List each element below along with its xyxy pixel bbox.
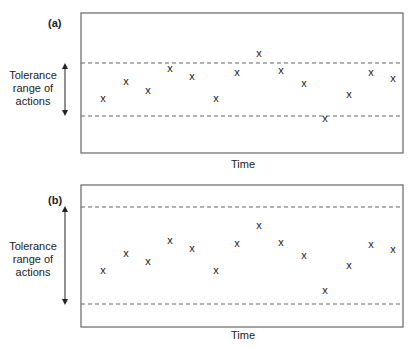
panel-a-tolerance-label-2: range of [13,82,54,94]
data-point-marker: x [167,62,173,74]
panel-a-frame [81,13,403,153]
panel-b-data-points: xxxxxxxxxxxxxx [100,219,396,296]
data-point-marker: x [322,284,328,296]
figure: (a) Tolerance range of actions Time xxxx… [0,0,412,347]
data-point-marker: x [301,249,307,261]
panel-b-tolerance-label-1: Tolerance [9,240,57,252]
panel-b: (b) Tolerance range of actions Time xxxx… [9,185,403,341]
data-point-marker: x [301,77,307,89]
data-point-marker: x [145,255,151,267]
panel-b-x-axis-label: Time [231,329,255,341]
data-point-marker: x [346,88,352,100]
panel-b-tolerance-label-2: range of [13,253,54,265]
data-point-marker: x [100,264,106,276]
data-point-marker: x [213,264,219,276]
data-point-marker: x [145,84,151,96]
panel-a-data-points: xxxxxxxxxxxxxx [100,47,396,124]
data-point-marker: x [256,219,262,231]
panel-a-x-axis-label: Time [231,158,255,170]
data-point-marker: x [346,259,352,271]
panel-b-tolerance-label-3: actions [16,266,51,278]
data-point-marker: x [278,236,284,248]
data-point-marker: x [390,243,396,255]
panel-a-label: (a) [48,17,62,29]
data-point-marker: x [256,47,262,59]
data-point-marker: x [167,234,173,246]
panel-a-tolerance-label-3: actions [16,95,51,107]
panel-a-tolerance-label-1: Tolerance [9,69,57,81]
data-point-marker: x [368,66,374,78]
panel-b-label: (b) [48,194,62,206]
panel-b-frame [81,185,403,327]
data-point-marker: x [368,238,374,250]
data-point-marker: x [189,70,195,82]
data-point-marker: x [390,72,396,84]
panel-a: (a) Tolerance range of actions Time xxxx… [9,13,403,170]
data-point-marker: x [123,247,129,259]
data-point-marker: x [213,92,219,104]
data-point-marker: x [234,237,240,249]
data-point-marker: x [278,64,284,76]
data-point-marker: x [189,242,195,254]
data-point-marker: x [234,66,240,78]
data-point-marker: x [322,112,328,124]
data-point-marker: x [123,75,129,87]
data-point-marker: x [100,92,106,104]
